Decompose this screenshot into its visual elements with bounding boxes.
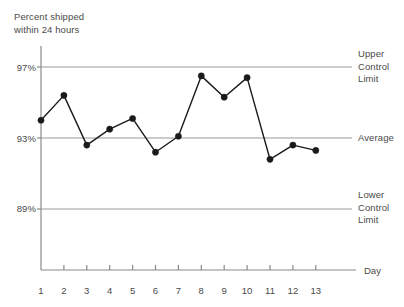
data-point-day-2 <box>61 92 67 98</box>
x-tick-label-4: 4 <box>107 285 112 296</box>
plot-area <box>0 0 404 307</box>
axes-group <box>37 46 356 270</box>
y-tick-label-97: 97% <box>17 62 36 73</box>
data-series-group <box>41 76 316 159</box>
x-tick-label-6: 6 <box>153 285 158 296</box>
x-tick-label-13: 13 <box>310 285 321 296</box>
average-label: Average <box>358 132 394 145</box>
x-tick-label-11: 11 <box>265 285 275 296</box>
data-markers-group <box>38 73 319 163</box>
data-point-day-8 <box>198 73 204 79</box>
x-tick-label-12: 12 <box>288 285 299 296</box>
upper-control-limit-label: Upper Control Limit <box>358 48 389 86</box>
x-tick-label-7: 7 <box>176 285 181 296</box>
data-point-day-7 <box>175 133 181 139</box>
y-tick-label-93: 93% <box>17 133 36 144</box>
data-point-day-4 <box>107 126 113 132</box>
data-point-day-12 <box>290 142 296 148</box>
x-tick-label-8: 8 <box>199 285 204 296</box>
x-tick-label-5: 5 <box>130 285 135 296</box>
data-point-day-13 <box>313 147 319 153</box>
data-series-line <box>41 76 316 159</box>
x-tick-marks-group <box>64 265 316 270</box>
data-point-day-10 <box>244 75 250 81</box>
y-axis-title: Percent shipped within 24 hours <box>14 11 84 36</box>
control-chart: Percent shipped within 24 hours 97% 93% … <box>0 0 404 307</box>
data-point-day-3 <box>84 142 90 148</box>
x-tick-label-3: 3 <box>84 285 89 296</box>
data-point-day-9 <box>221 94 227 100</box>
y-tick-label-89: 89% <box>17 203 36 214</box>
lower-control-limit-label: Lower Control Limit <box>358 189 389 227</box>
x-tick-label-10: 10 <box>242 285 253 296</box>
data-point-day-1 <box>38 117 44 123</box>
data-point-day-11 <box>267 156 273 162</box>
x-tick-label-9: 9 <box>221 285 226 296</box>
x-tick-label-1: 1 <box>38 285 43 296</box>
data-point-day-6 <box>152 149 158 155</box>
x-tick-label-2: 2 <box>61 285 66 296</box>
x-axis-title: Day <box>364 265 381 276</box>
data-point-day-5 <box>130 115 136 121</box>
